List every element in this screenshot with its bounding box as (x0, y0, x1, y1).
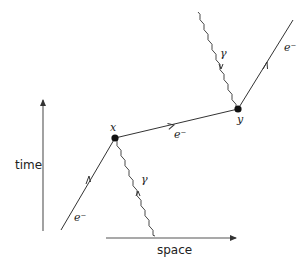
vertex-x-label: x (110, 122, 116, 133)
vertex-x-dot (111, 134, 118, 141)
time-axis-label: time (15, 159, 42, 171)
electron-label-outgoing: e⁻ (284, 42, 296, 53)
diagram-canvas (0, 0, 307, 264)
feynman-diagram: time space x y e⁻ e⁻ e⁻ γ γ (0, 0, 307, 264)
photon-label-x: γ (141, 174, 148, 185)
photon-arrow-x (136, 191, 140, 196)
space-axis-label: space (157, 244, 192, 256)
electron-label-propagator: e⁻ (174, 129, 186, 140)
electron-label-incoming: e⁻ (74, 212, 86, 223)
vertex-y-dot (234, 105, 241, 112)
photon-line-y (198, 12, 238, 109)
vertex-y-label: y (237, 114, 243, 125)
electron-line-outgoing (238, 20, 293, 109)
photon-line-x (115, 138, 155, 236)
electron-line-incoming (61, 138, 115, 230)
photon-label-y: γ (220, 48, 227, 59)
